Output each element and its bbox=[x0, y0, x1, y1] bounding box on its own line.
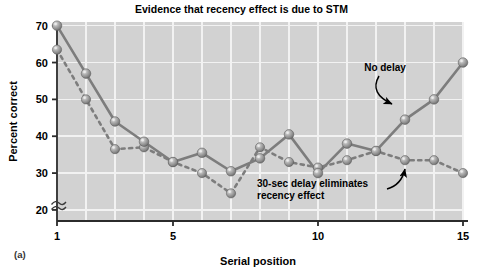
y-tick-label: 30 bbox=[36, 167, 48, 179]
x-tick-label: 5 bbox=[170, 230, 176, 242]
x-tick-label: 15 bbox=[457, 230, 469, 242]
annotation-no-delay: No delay bbox=[364, 62, 406, 73]
chart-title: Evidence that recency effect is due to S… bbox=[135, 3, 348, 15]
x-tick-label: 1 bbox=[54, 230, 60, 242]
x-axis-title: Serial position bbox=[220, 255, 296, 267]
x-tick-label: 10 bbox=[312, 230, 324, 242]
y-tick-label: 70 bbox=[36, 20, 48, 32]
y-tick-label: 40 bbox=[36, 130, 48, 142]
y-tick-label: 60 bbox=[36, 57, 48, 69]
annotation-delay-line2: recency effect bbox=[257, 190, 325, 201]
y-tick-label: 50 bbox=[36, 93, 48, 105]
y-axis-title: Percent correct bbox=[7, 81, 19, 162]
figure-panel: 203040506070 151015 Evidence that recenc… bbox=[0, 0, 483, 277]
panel-label: (a) bbox=[14, 249, 26, 260]
annotation-delay-line1: 30-sec delay eliminates bbox=[257, 178, 369, 189]
serial-position-chart: 203040506070 151015 Evidence that recenc… bbox=[0, 0, 483, 277]
y-tick-label: 20 bbox=[36, 204, 48, 216]
